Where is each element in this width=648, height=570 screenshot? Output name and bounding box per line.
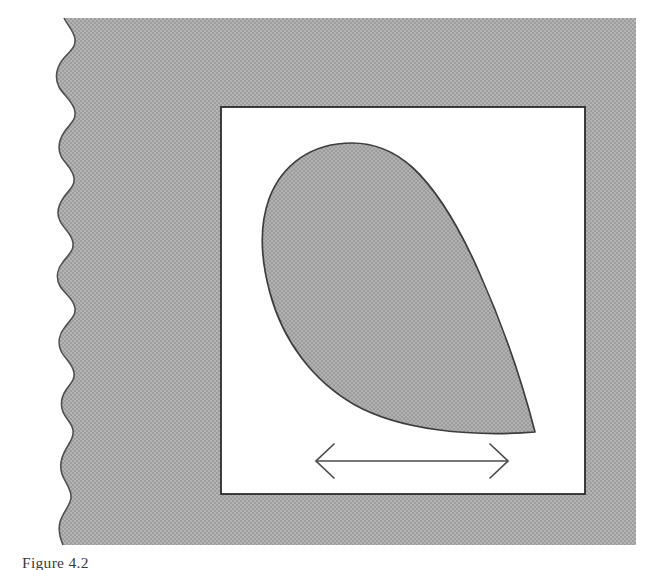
page-canvas: Figure 4.2 <box>0 0 648 570</box>
figure-illustration <box>0 0 648 548</box>
figure-plate <box>0 0 648 545</box>
figure-caption: Figure 4.2 <box>22 553 322 570</box>
